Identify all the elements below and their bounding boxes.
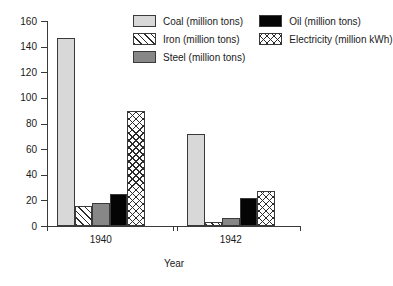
- legend-label-oil: Oil (million tons): [289, 16, 361, 27]
- x-tick: [177, 227, 178, 231]
- y-tick-label: 160: [20, 17, 37, 27]
- legend-swatch-iron-icon: [133, 33, 156, 45]
- y-tick-label: 0: [31, 222, 37, 232]
- bar-steel-1942: [222, 218, 240, 226]
- x-group-label-1942: 1942: [220, 234, 242, 245]
- bar-electricity-1940: [127, 111, 145, 226]
- bar-coal-1940: [57, 38, 75, 226]
- x-tick: [47, 227, 48, 231]
- bar-coal-1942: [187, 134, 205, 226]
- legend-item-oil: Oil (million tons): [259, 15, 392, 27]
- x-tick: [300, 227, 301, 231]
- legend-label-coal: Coal (million tons): [163, 16, 243, 27]
- legend-item-coal: Coal (million tons): [133, 15, 245, 27]
- y-tick-label: 100: [20, 93, 37, 103]
- legend-label-steel: Steel (million tons): [163, 52, 245, 63]
- legend-item-electricity: Electricity (million kWh): [259, 33, 392, 45]
- y-tick-label: 40: [26, 170, 37, 180]
- legend-label-electricity: Electricity (million kWh): [289, 34, 392, 45]
- legend-swatch-coal-icon: [133, 15, 156, 27]
- y-tick-label: 140: [20, 42, 37, 52]
- bar-oil-1942: [240, 198, 258, 226]
- bar-iron-1942: [205, 222, 223, 226]
- x-tick: [173, 227, 174, 231]
- legend-swatch-steel-icon: [133, 51, 156, 63]
- bar-oil-1940: [110, 194, 128, 226]
- x-axis-line: [47, 226, 301, 227]
- x-axis-title: Year: [164, 258, 184, 269]
- legend-swatch-electricity-icon: [259, 33, 282, 45]
- legend-label-iron: Iron (million tons): [163, 34, 240, 45]
- legend-item-steel: Steel (million tons): [133, 51, 245, 63]
- bar-chart: 160140120100806040200 19401942 Year Coal…: [0, 0, 393, 286]
- y-tick-label: 120: [20, 68, 37, 78]
- legend-swatch-oil-icon: [259, 15, 282, 27]
- y-tick-label: 60: [26, 145, 37, 155]
- x-group-label-1940: 1940: [90, 234, 112, 245]
- bar-electricity-1942: [257, 191, 275, 226]
- chart-legend: Coal (million tons)Oil (million tons)Iro…: [133, 15, 393, 63]
- y-tick-label: 80: [26, 119, 37, 129]
- bar-iron-1940: [75, 206, 93, 226]
- bar-steel-1940: [92, 203, 110, 226]
- y-tick-label: 20: [26, 196, 37, 206]
- legend-item-iron: Iron (million tons): [133, 33, 245, 45]
